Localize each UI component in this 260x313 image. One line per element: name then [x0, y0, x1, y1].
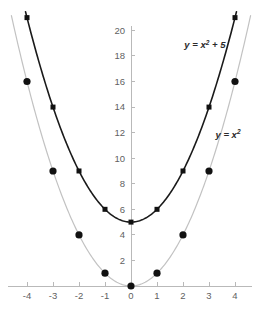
- x-tick-label: 0: [128, 290, 133, 301]
- data-point-marker: [127, 282, 134, 289]
- data-point-marker: [25, 15, 30, 20]
- y-tick-label: 8: [120, 178, 125, 189]
- ticks-layer: 2468101214161820-4-3-2-101234: [23, 25, 238, 301]
- y-tick-label: 2: [120, 255, 125, 266]
- x-tick-label: 2: [180, 290, 185, 301]
- x-tick-label: 3: [206, 290, 211, 301]
- data-point-marker: [49, 167, 56, 174]
- data-point-marker: [179, 231, 186, 238]
- series-label-0: y = x2 + 5: [183, 39, 226, 51]
- y-tick-label: 10: [114, 153, 125, 164]
- series-label-exponent: 2: [236, 128, 241, 135]
- y-tick-label: 20: [114, 25, 125, 36]
- data-point-marker: [77, 168, 82, 173]
- y-tick-label: 4: [120, 229, 125, 240]
- x-tick-label: 4: [232, 290, 237, 301]
- x-tick-label: -4: [23, 290, 31, 301]
- data-point-marker: [103, 207, 108, 212]
- x-tick-label: -3: [49, 290, 57, 301]
- parabola-comparison-chart: 2468101214161820-4-3-2-101234 y = x2 + 5…: [0, 0, 260, 313]
- y-tick-label: 6: [120, 204, 125, 215]
- x-tick-label: 1: [154, 290, 159, 301]
- data-point-marker: [233, 15, 238, 20]
- data-point-marker: [153, 270, 160, 277]
- y-tick-label: 12: [114, 127, 125, 138]
- series-annotations-layer: y = x2 + 5y = x2: [183, 39, 241, 140]
- series-label-main: y = x: [183, 39, 206, 50]
- y-tick-label: 14: [114, 101, 125, 112]
- axes-layer: [8, 26, 252, 287]
- y-tick-label: 18: [114, 50, 125, 61]
- data-point-marker: [155, 207, 160, 212]
- chart-container: 2468101214161820-4-3-2-101234 y = x2 + 5…: [0, 0, 260, 313]
- data-point-marker: [75, 231, 82, 238]
- series-label-main: y = x: [215, 129, 238, 140]
- data-point-marker: [207, 105, 212, 110]
- y-tick-label: 16: [114, 76, 125, 87]
- x-tick-label: -1: [101, 290, 109, 301]
- data-point-marker: [23, 78, 30, 85]
- data-point-marker: [181, 168, 186, 173]
- data-point-marker: [129, 220, 134, 225]
- data-point-marker: [51, 105, 56, 110]
- data-point-marker: [231, 78, 238, 85]
- series-label-tail: + 5: [209, 39, 226, 50]
- data-point-marker: [101, 270, 108, 277]
- series-label-1: y = x2: [215, 128, 241, 140]
- x-tick-label: -2: [75, 290, 83, 301]
- data-point-marker: [205, 167, 212, 174]
